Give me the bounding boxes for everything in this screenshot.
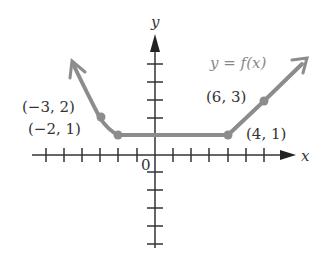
y-axis-label: y [150, 13, 160, 31]
point-neg2-1 [114, 131, 123, 140]
origin-label: 0 [141, 156, 151, 174]
point-label-6-3: (6, 3) [206, 88, 246, 106]
x-axis-arrow-icon [280, 150, 296, 160]
point-6-3 [260, 97, 269, 106]
function-label: y = f(x) [209, 54, 266, 72]
point-neg3-2 [97, 113, 106, 122]
x-axis [32, 148, 296, 162]
y-axis [147, 34, 163, 248]
y-axis-arrow-icon [150, 34, 160, 52]
point-4-1 [224, 131, 233, 140]
x-axis-label: x [301, 147, 310, 165]
function-graph: y x 0 y = f(x) (−3, 2) (−2, 1) (4, 1) (6… [0, 0, 331, 268]
point-label-4-1: (4, 1) [246, 125, 286, 143]
point-label-neg3-2: (−3, 2) [22, 98, 75, 116]
point-label-neg2-1: (−2, 1) [28, 120, 81, 138]
